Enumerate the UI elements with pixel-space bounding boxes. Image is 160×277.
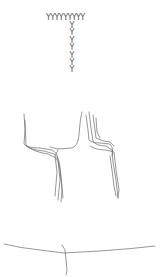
sketch-canvas <box>0 0 160 277</box>
left-chair-sketch <box>24 112 82 202</box>
ground-line-sketch <box>4 244 155 275</box>
right-chair-sketch <box>86 112 119 198</box>
